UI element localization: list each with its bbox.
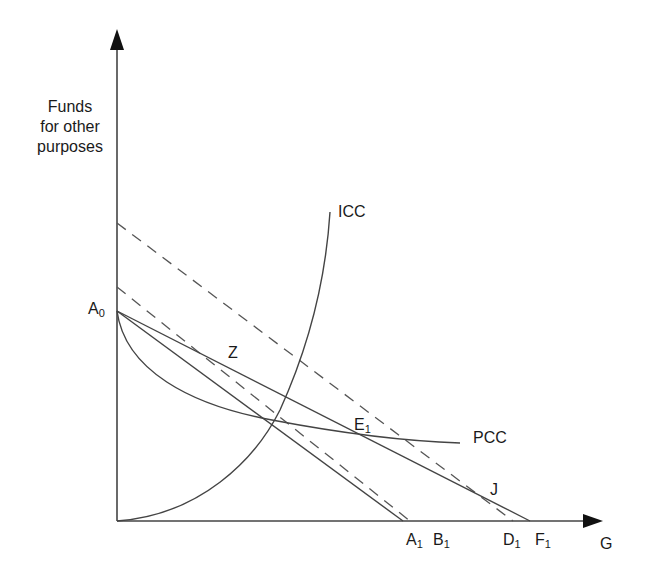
y-axis-label-line: for other (28, 117, 112, 137)
icc-curve (117, 212, 330, 521)
point-label-z: Z (228, 344, 238, 362)
point-label-b1: B1 (433, 531, 450, 549)
x-axis-arrow-icon (583, 514, 603, 528)
point-label-e1: E1 (354, 416, 371, 434)
y-axis-label-line: purposes (28, 137, 112, 157)
dashed-line-to-d1 (117, 223, 513, 521)
y-axis-label-line: Funds (28, 97, 112, 117)
icc-label: ICC (338, 203, 366, 221)
point-label-a1: A1 (406, 531, 423, 549)
y-axis-label: Funds for other purposes (28, 97, 112, 157)
point-label-a0: A0 (88, 300, 105, 318)
budget-line-a0-f1 (117, 311, 530, 521)
diagram-canvas (0, 0, 648, 585)
point-label-d1: D1 (503, 531, 521, 549)
x-axis-label: G (600, 535, 612, 553)
point-label-f1: F1 (535, 531, 551, 549)
dashed-line-to-b1 (117, 287, 410, 521)
pcc-label: PCC (473, 429, 507, 447)
pcc-curve (117, 311, 460, 443)
point-label-j: J (490, 481, 498, 499)
y-axis-arrow-icon (110, 29, 124, 50)
